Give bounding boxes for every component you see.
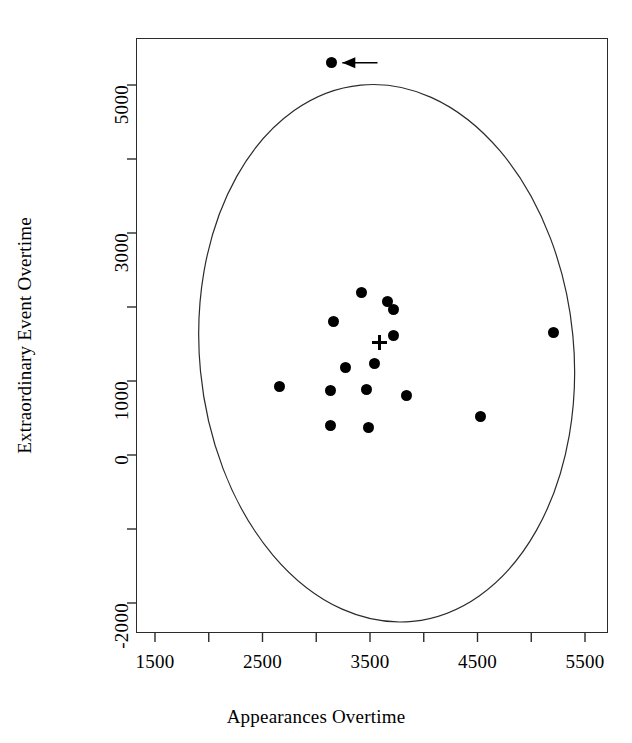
y-tick-label: 5000 — [111, 85, 133, 124]
data-point — [388, 330, 399, 341]
x-tick-label: 2500 — [243, 651, 282, 673]
y-tick-label: 1000 — [111, 381, 133, 420]
x-axis-title: Appearances Overtime — [0, 706, 632, 728]
data-point — [325, 420, 336, 431]
x-tick-label: 3500 — [350, 651, 389, 673]
y-axis-title: Extraordinary Event Overtime — [10, 38, 40, 633]
y-tick-label: 3000 — [111, 233, 133, 272]
x-tick-label: 1500 — [135, 651, 174, 673]
y-tick-label: -2000 — [111, 603, 133, 649]
x-tick-label: 5500 — [565, 651, 604, 673]
scatter-plot-figure: 15002500350045005500 5000300010000-2000 … — [0, 0, 632, 743]
data-point — [340, 362, 351, 373]
x-tick-label: 4500 — [458, 651, 497, 673]
y-tick-label: 0 — [111, 455, 133, 465]
centroid-marker — [372, 335, 387, 350]
